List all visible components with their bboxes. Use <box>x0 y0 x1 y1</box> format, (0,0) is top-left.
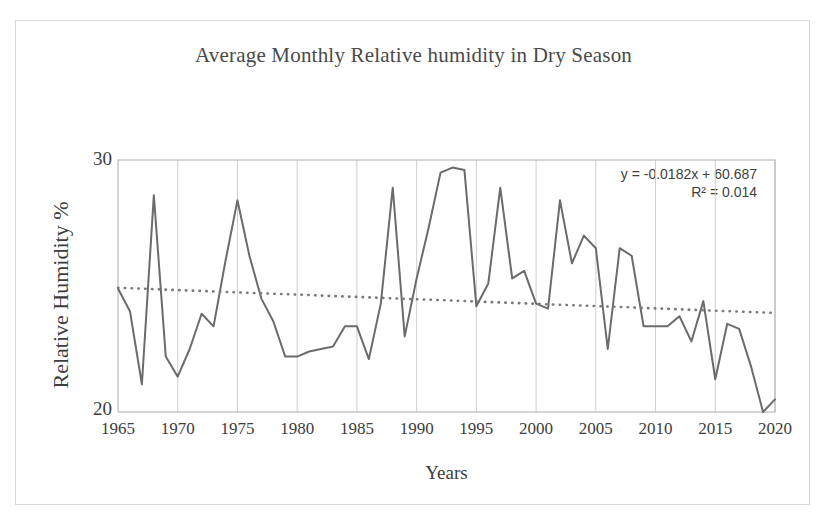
trendline-equation-annotation: y = -0.0182x + 60.687 <box>621 166 757 182</box>
chart-title: Average Monthly Relative humidity in Dry… <box>16 43 811 68</box>
r-squared-annotation: R² = 0.014 <box>691 184 757 200</box>
chart-card: Average Monthly Relative humidity in Dry… <box>15 20 810 505</box>
